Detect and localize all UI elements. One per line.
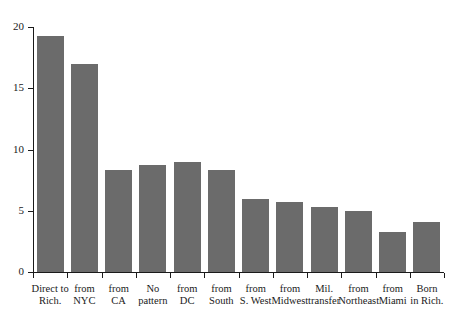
bar (311, 207, 338, 272)
x-axis-label: Born in Rich. (407, 283, 447, 306)
x-tick-mark (444, 273, 445, 278)
y-axis-line (33, 27, 34, 272)
x-tick-mark (410, 273, 411, 278)
bar (276, 202, 303, 272)
bar (174, 162, 201, 272)
y-tick-label: 0 (0, 266, 24, 277)
x-tick-mark (239, 273, 240, 278)
bar (105, 170, 132, 272)
bar (139, 165, 166, 272)
y-tick-mark (28, 150, 33, 151)
y-tick-label: 5 (0, 205, 24, 216)
bar (242, 199, 269, 273)
y-tick-label: 20 (0, 21, 24, 32)
bar (413, 222, 440, 272)
x-tick-mark (33, 273, 34, 278)
x-tick-mark (204, 273, 205, 278)
bar (379, 232, 406, 272)
bar (37, 36, 64, 272)
x-tick-mark (170, 273, 171, 278)
y-tick-label: 10 (0, 144, 24, 155)
bar-chart: 05101520 Direct to Rich.from NYCfrom CAN… (0, 0, 456, 316)
bar (71, 64, 98, 272)
y-tick-mark (28, 211, 33, 212)
y-tick-mark (28, 88, 33, 89)
x-tick-mark (67, 273, 68, 278)
x-tick-mark (102, 273, 103, 278)
y-tick-label: 15 (0, 82, 24, 93)
x-tick-mark (341, 273, 342, 278)
x-tick-mark (376, 273, 377, 278)
bar (345, 211, 372, 272)
x-tick-mark (307, 273, 308, 278)
bar (208, 170, 235, 272)
x-tick-mark (273, 273, 274, 278)
y-tick-mark (28, 27, 33, 28)
x-tick-mark (136, 273, 137, 278)
